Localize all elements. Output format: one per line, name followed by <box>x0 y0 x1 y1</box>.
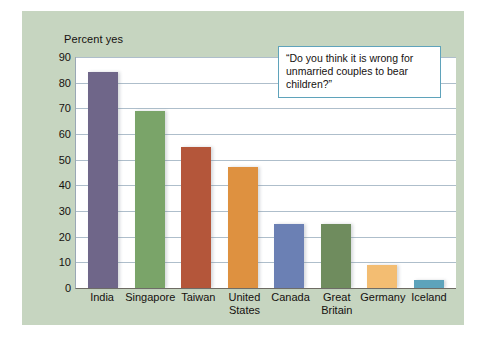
y-axis-tick-label: 30 <box>59 205 71 217</box>
bar <box>88 72 118 288</box>
y-axis-tick-label: 50 <box>59 154 71 166</box>
chart-panel: Percent yes 9080706050403020100 IndiaSin… <box>22 11 464 325</box>
question-callout: “Do you think it is wrong for unmarried … <box>278 46 441 98</box>
bar <box>228 167 258 288</box>
bar-slot <box>220 57 267 288</box>
x-axis-tick-labels: IndiaSingaporeTaiwanUnited StatesCanadaG… <box>75 291 456 316</box>
y-axis-tick-label: 40 <box>59 179 71 191</box>
bar <box>135 111 165 288</box>
x-axis-tick-label: Germany <box>360 291 406 316</box>
chart-figure: Percent yes 9080706050403020100 IndiaSin… <box>0 0 486 341</box>
bar-slot <box>173 57 220 288</box>
y-axis-title: Percent yes <box>64 33 123 45</box>
x-axis-tick-label: India <box>79 291 125 316</box>
y-axis-tick-label: 70 <box>59 102 71 114</box>
y-axis-tick-label: 0 <box>65 282 71 294</box>
bar-slot <box>127 57 174 288</box>
x-axis-tick-label: Taiwan <box>175 291 221 316</box>
bar <box>367 265 397 288</box>
bar <box>274 224 304 288</box>
y-axis-tick-label: 60 <box>59 128 71 140</box>
bar <box>321 224 351 288</box>
y-axis-tick-label: 20 <box>59 231 71 243</box>
x-axis-tick-label: United States <box>221 291 267 316</box>
y-axis-tick-label: 90 <box>59 51 71 63</box>
x-axis-tick-label: Canada <box>268 291 314 316</box>
x-axis-tick-label: Great Britain <box>314 291 360 316</box>
y-axis-tick-label: 10 <box>59 256 71 268</box>
y-axis-tick-label: 80 <box>59 77 71 89</box>
x-axis-tick-label: Singapore <box>125 291 175 316</box>
bar <box>414 280 444 288</box>
bar <box>181 147 211 288</box>
x-axis-tick-label: Iceland <box>406 291 452 316</box>
bar-slot <box>80 57 127 288</box>
